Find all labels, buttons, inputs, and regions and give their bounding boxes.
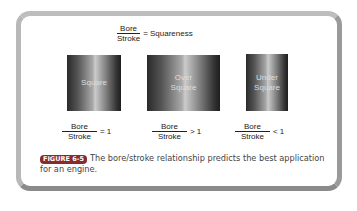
cylinder-label: Square <box>81 78 107 87</box>
cylinder-label: Square <box>171 83 197 92</box>
figure-badge: FIGURE 6-5 <box>40 155 87 164</box>
cylinder-under-square: UnderSquare <box>246 54 288 111</box>
formula-denominator: Stroke <box>117 34 140 43</box>
formula-rhs: > 1 <box>190 127 201 136</box>
formula-rhs: < 1 <box>273 127 284 136</box>
formula-numerator: Bore <box>117 24 140 34</box>
formula-denominator: Stroke <box>68 132 91 141</box>
formula-numerator: Bore <box>235 122 270 132</box>
under-square-formula: Bore Stroke < 1 <box>235 122 284 141</box>
formula-rhs: = Squareness <box>143 29 193 38</box>
formula-denominator: Stroke <box>241 132 264 141</box>
over-square-formula: Bore Stroke > 1 <box>152 122 201 141</box>
cylinder-label: Square <box>254 83 280 92</box>
cylinder-label: Under <box>256 73 278 82</box>
cylinder-square: Square <box>67 55 121 111</box>
square-formula: Bore Stroke = 1 <box>62 122 111 141</box>
formula-numerator: Bore <box>62 122 97 132</box>
figure-caption: FIGURE 6-5The bore/stroke relationship p… <box>40 153 330 175</box>
formula-numerator: Bore <box>152 122 187 132</box>
formula-denominator: Stroke <box>158 132 181 141</box>
formula-rhs: = 1 <box>100 127 111 136</box>
cylinder-over-square: OverSquare <box>147 55 220 111</box>
cylinder-label: Over <box>175 73 192 82</box>
squareness-formula: Bore Stroke = Squareness <box>117 24 193 43</box>
